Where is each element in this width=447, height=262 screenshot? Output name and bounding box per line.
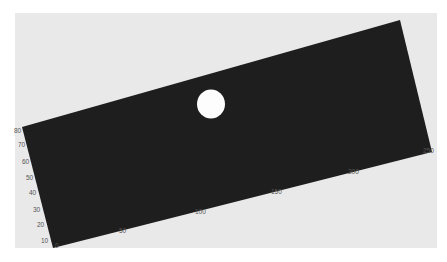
corner-tick-0: 0 [55, 242, 59, 249]
x-tick-50: 50 [119, 227, 127, 234]
surface-plot: 80 70 60 50 40 30 20 10 0 50 100 150 200… [0, 0, 447, 262]
x-tick-250: 250 [423, 147, 434, 154]
y-tick-40: 40 [29, 189, 37, 196]
y-tick-20: 20 [37, 221, 45, 228]
y-tick-10: 10 [41, 237, 49, 244]
y-tick-30: 30 [33, 206, 41, 213]
x-tick-200: 200 [348, 168, 359, 175]
x-tick-100: 100 [195, 208, 206, 215]
bright-blob [197, 90, 225, 119]
y-tick-70: 70 [18, 141, 26, 148]
x-tick-150: 150 [271, 188, 282, 195]
y-tick-80: 80 [14, 127, 22, 134]
y-tick-50: 50 [26, 174, 34, 181]
y-tick-60: 60 [22, 158, 30, 165]
dark-surface [22, 20, 432, 248]
